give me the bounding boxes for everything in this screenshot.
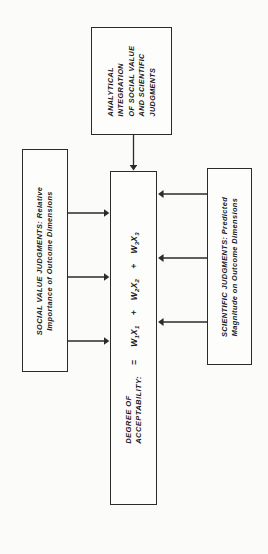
social-line-2: Importance of Outcome Dimensions <box>45 186 55 334</box>
acceptability-model-diagram: ANALYTICAL INTEGRATION OF SOCIAL VALUE A… <box>0 0 268 554</box>
scientific-line-1: SCIENTIFIC JUDGMENTS: Predicted <box>220 196 230 336</box>
equation-label-line-2: ACCEPTABILITY: <box>134 376 143 444</box>
degree-of-acceptability-box: DEGREE OF ACCEPTABILITY: = W1 X1 + W2 X2… <box>110 171 157 505</box>
degree-of-acceptability-label: DEGREE OF ACCEPTABILITY: <box>123 376 143 444</box>
scientific-judgments-label: SCIENTIFIC JUDGMENTS: Predicted Magnitud… <box>220 196 240 336</box>
social-value-judgments-label: SOCIAL VALUE JUDGMENTS: Relative Importa… <box>35 186 55 334</box>
analytical-integration-box: ANALYTICAL INTEGRATION OF SOCIAL VALUE A… <box>91 27 172 135</box>
term-3-weight: W3 <box>129 242 139 254</box>
social-value-judgments-box: SOCIAL VALUE JUDGMENTS: Relative Importa… <box>22 149 68 372</box>
analytical-line-1: ANALYTICAL <box>105 46 115 117</box>
scientific-line-2: Magnitude on Outcome Dimensions <box>230 196 240 336</box>
acceptability-equation: DEGREE OF ACCEPTABILITY: = W1 X1 + W2 X2… <box>123 232 143 444</box>
analytical-line-2: INTEGRATION <box>116 46 126 117</box>
operator-plus-1: + <box>129 310 139 315</box>
term-3-magnitude: X3 <box>129 232 139 242</box>
term-1-weight: W1 <box>129 335 139 347</box>
operator-plus-2: + <box>129 264 139 269</box>
scientific-judgments-box: SCIENTIFIC JUDGMENTS: Predicted Magnitud… <box>207 168 252 365</box>
analytical-line-3: OF SOCIAL VALUE <box>126 46 136 117</box>
term-2-magnitude: X2 <box>129 279 139 289</box>
equals-sign: = <box>129 360 139 365</box>
analytical-integration-label: ANALYTICAL INTEGRATION OF SOCIAL VALUE A… <box>105 46 157 117</box>
analytical-line-5: JUDGMENTS <box>147 46 157 117</box>
analytical-line-4: AND SCIENTIFIC <box>137 46 147 117</box>
term-2-weight: W2 <box>129 288 139 300</box>
social-line-1: SOCIAL VALUE JUDGMENTS: Relative <box>35 186 45 334</box>
term-1-magnitude: X1 <box>129 325 139 335</box>
equation-label-line-1: DEGREE OF <box>123 396 132 444</box>
